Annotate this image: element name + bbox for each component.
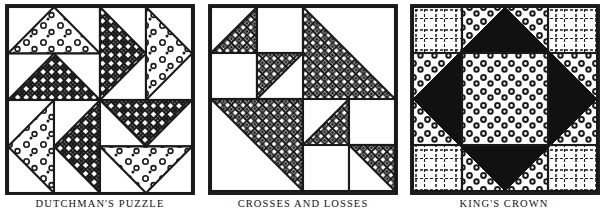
kings-crown-artwork xyxy=(410,4,600,195)
crosses-and-losses-artwork xyxy=(208,4,398,195)
dutchmans-puzzle-artwork xyxy=(5,4,195,195)
quilt-block-dutchmans-puzzle xyxy=(5,4,195,195)
block-caption-kings-crown: KING'S CROWN xyxy=(404,197,604,211)
block-caption-crosses-and-losses: CROSSES AND LOSSES xyxy=(203,197,403,211)
quilt-block-crosses-and-losses xyxy=(208,4,398,195)
quilt-block-kings-crown xyxy=(410,4,600,195)
pattern-plate: DUTCHMAN'S PUZZLE xyxy=(0,0,604,212)
block-caption-dutchmans-puzzle: DUTCHMAN'S PUZZLE xyxy=(0,197,200,211)
